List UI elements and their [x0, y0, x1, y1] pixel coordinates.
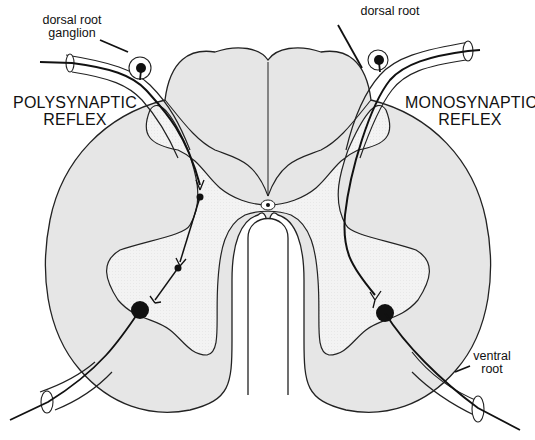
- left-ganglion-label: dorsal root ganglion: [27, 14, 117, 40]
- title-line: MONOSYNAPTIC: [405, 95, 535, 112]
- label-line: ganglion: [27, 27, 117, 40]
- right-dorsal-root-label: dorsal root: [345, 5, 435, 18]
- spinal-cord-diagram: [0, 0, 535, 440]
- title-line: REFLEX: [10, 112, 140, 129]
- label-line: root: [462, 363, 522, 376]
- title-line: POLYSYNAPTIC: [10, 95, 140, 112]
- left-ganglion-leader: [100, 40, 128, 52]
- monosynaptic-title: MONOSYNAPTIC REFLEX: [405, 95, 535, 129]
- polysynaptic-title: POLYSYNAPTIC REFLEX: [10, 95, 140, 129]
- ventral-root-label: ventral root: [462, 350, 522, 376]
- title-line: REFLEX: [405, 112, 535, 129]
